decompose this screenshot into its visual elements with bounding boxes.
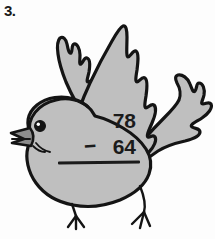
bird-eye <box>35 121 46 132</box>
subtrahend-value: 64 <box>113 134 136 160</box>
answer-rule-line <box>58 161 140 165</box>
minuend-value: 78 <box>113 108 136 134</box>
minus-operator-icon: − <box>83 133 97 160</box>
subtraction-problem: 78 − 64 <box>56 108 146 170</box>
bird-beak <box>11 128 33 146</box>
minuend-row: 78 <box>56 108 146 134</box>
subtrahend-row: − 64 <box>56 134 146 160</box>
worksheet-problem-item: 3. <box>0 0 215 239</box>
bird-eye-highlight <box>37 123 40 126</box>
